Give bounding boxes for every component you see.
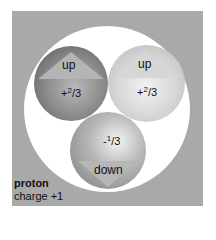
quark-flavor-label: up bbox=[62, 59, 75, 71]
quark-charge: +2/3 bbox=[61, 85, 81, 99]
quark-down: -1/3 down bbox=[70, 112, 146, 189]
particle-name: proton bbox=[14, 177, 63, 190]
quark-up-right: up +2/3 bbox=[108, 45, 185, 122]
quark-flavor-label: down bbox=[94, 164, 123, 176]
particle-charge: charge +1 bbox=[14, 190, 63, 203]
quark-flavor-label: up bbox=[138, 58, 151, 70]
quark-charge: +2/3 bbox=[137, 84, 157, 98]
quark-charge: -1/3 bbox=[103, 133, 120, 147]
particle-caption: proton charge +1 bbox=[14, 177, 63, 203]
quark-up-left: up +2/3 bbox=[34, 46, 108, 121]
